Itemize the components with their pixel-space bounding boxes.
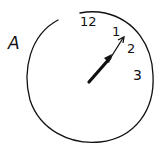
hour-hand [89,58,110,82]
clock-number-1: 1 [112,24,120,39]
minute-hand [108,38,123,62]
clock-number-3: 3 [133,67,142,83]
clock-number-12: 12 [80,14,97,29]
clock-number-2: 2 [127,41,135,56]
figure-label: A [8,33,20,53]
